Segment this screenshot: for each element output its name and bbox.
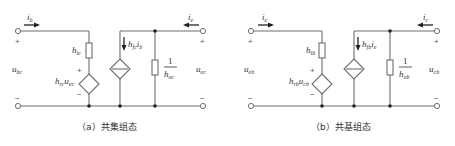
node	[388, 29, 392, 33]
resistor-hic	[86, 43, 92, 58]
label-input-resistor: hic	[72, 45, 81, 56]
svg-text:+: +	[15, 37, 20, 46]
svg-text:+: +	[200, 37, 205, 46]
terminal-output-bottom	[434, 103, 439, 108]
label-input-current: ie	[262, 12, 268, 23]
terminal-input-top	[15, 28, 20, 33]
terminal-output-top	[200, 28, 205, 33]
label-current-source: hfbie	[362, 39, 377, 50]
node	[153, 29, 157, 33]
caption-panel-a: （a）共集组态	[77, 120, 137, 133]
label-input-current: ib	[27, 12, 33, 23]
svg-text:−: −	[248, 94, 253, 103]
svg-text:+: +	[248, 37, 253, 46]
terminal-input-bottom	[248, 103, 253, 108]
label-output-current: ic	[423, 12, 429, 23]
arrow-right-icon	[24, 23, 40, 28]
svg-text:−: −	[434, 94, 439, 103]
arrow-right-icon	[258, 23, 274, 28]
label-input-resistor: hib	[306, 45, 315, 56]
label-output-current: ie	[188, 12, 194, 23]
svg-text:1: 1	[403, 56, 408, 66]
terminal-input-bottom	[15, 103, 20, 108]
svg-text:hob: hob	[399, 69, 410, 80]
node	[352, 104, 356, 108]
arrow-left-icon	[183, 23, 199, 28]
svg-text:+: +	[434, 37, 439, 46]
circuit-common-collector: + − + − + − ib ie ubc uec hic hrcuec hfc…	[12, 12, 206, 109]
label-output-voltage: ucb	[429, 64, 439, 75]
circuit-common-base: + − + − + − ie ic ueb ucb hib hrbucb hfb…	[244, 12, 440, 109]
label-feedback-source: hrbucb	[289, 76, 309, 87]
resistor-output-conductance	[152, 60, 158, 75]
node	[87, 104, 91, 108]
arrow-down-icon	[122, 37, 127, 51]
label-output-conductance: 1 hoc	[164, 56, 177, 80]
terminal-output-bottom	[200, 103, 205, 108]
label-input-voltage: ueb	[244, 64, 254, 75]
label-feedback-source: hrcuec	[55, 76, 74, 87]
svg-text:+: +	[77, 66, 82, 75]
label-output-conductance: 1 hob	[399, 56, 412, 80]
resistor-output-conductance	[387, 60, 393, 75]
terminal-output-top	[434, 28, 439, 33]
node	[153, 104, 157, 108]
svg-text:+: +	[310, 66, 315, 75]
svg-text:hoc: hoc	[164, 69, 175, 80]
svg-text:1: 1	[168, 56, 173, 66]
svg-text:−: −	[200, 94, 205, 103]
svg-text:−: −	[15, 94, 20, 103]
h-parameter-equivalent-circuits: + − + − + − ib ie ubc uec hic hrcuec hfc…	[0, 0, 455, 146]
label-input-voltage: ubc	[12, 64, 23, 75]
terminal-input-top	[248, 28, 253, 33]
resistor-hib	[319, 43, 325, 58]
arrow-down-icon	[356, 37, 361, 51]
caption-panel-b: （b）共基组态	[311, 120, 371, 133]
svg-text:−: −	[310, 90, 315, 99]
node	[118, 104, 122, 108]
label-current-source: hfcib	[128, 39, 142, 50]
node	[320, 104, 324, 108]
label-output-voltage: uec	[196, 64, 206, 75]
dependent-voltage-source	[79, 74, 99, 94]
svg-text:−: −	[77, 90, 82, 99]
node	[388, 104, 392, 108]
arrow-left-icon	[417, 23, 433, 28]
dependent-voltage-source	[312, 74, 332, 94]
